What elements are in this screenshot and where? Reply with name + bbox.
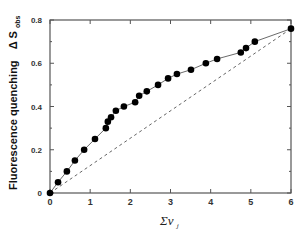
chart: 00.20.40.60.8 0123456 Fluorescence quenc… — [0, 0, 299, 236]
dashed-line — [50, 29, 291, 193]
y-axis-label-delta: Δ S — [7, 31, 19, 49]
data-point — [132, 99, 139, 106]
y-tick-label: 0 — [38, 189, 43, 198]
data-point — [165, 75, 172, 82]
x-tick-label: 1 — [88, 197, 93, 207]
y-tick-label: 0.4 — [31, 103, 43, 112]
data-point — [47, 190, 54, 197]
x-axis-label-main: Σν — [159, 213, 174, 228]
x-tick-labels: 0123456 — [47, 197, 293, 207]
data-point — [113, 108, 120, 115]
y-tick-label: 0.8 — [31, 16, 43, 25]
x-axis-label: Σν j — [159, 213, 179, 230]
data-point — [103, 125, 110, 132]
x-tick-label: 3 — [168, 197, 173, 207]
data-point — [155, 82, 162, 89]
x-tick-label: 0 — [47, 197, 52, 207]
x-tick-label: 2 — [128, 197, 133, 207]
data-point — [174, 71, 181, 78]
data-point — [72, 157, 79, 164]
data-point — [92, 136, 99, 143]
y-tick-label: 0.6 — [31, 59, 43, 68]
plot-frame — [50, 20, 291, 193]
reference-dashed-line — [50, 29, 291, 193]
data-point — [136, 92, 143, 99]
data-point — [121, 103, 128, 110]
data-point — [188, 66, 195, 73]
data-point — [214, 56, 221, 63]
y-axis-label: Fluorescence quenching Δ S obs — [7, 15, 21, 190]
data-point — [81, 146, 88, 153]
data-point — [203, 60, 210, 67]
x-tick-label: 4 — [208, 197, 213, 207]
x-tick-label: 6 — [288, 197, 293, 207]
data-point — [288, 25, 295, 32]
data-point — [252, 38, 259, 45]
plot-axes — [50, 20, 291, 193]
y-tick-label: 0.2 — [31, 146, 43, 155]
y-tick-labels: 00.20.40.60.8 — [31, 16, 43, 198]
data-point — [237, 49, 244, 56]
data-point — [55, 179, 62, 186]
data-point — [64, 168, 71, 175]
data-point — [243, 45, 250, 52]
y-axis-label-main: Fluorescence quenching — [7, 60, 19, 190]
data-point — [108, 114, 115, 121]
x-tick-label: 5 — [248, 197, 253, 207]
x-axis-label-sub: j — [176, 222, 179, 230]
y-axis-label-sub: obs — [14, 15, 21, 28]
data-point — [144, 88, 151, 95]
